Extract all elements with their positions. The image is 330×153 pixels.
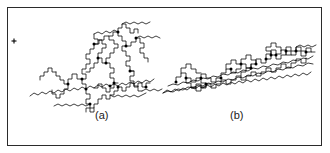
cluster-a-branch-11 bbox=[56, 72, 82, 84]
cluster-b-branch-12 bbox=[226, 60, 241, 69]
cluster-junction-dot bbox=[125, 45, 128, 48]
cluster-junction-dot bbox=[97, 57, 100, 60]
cluster-b-branch-4 bbox=[186, 58, 306, 88]
cluster-a-branch-6 bbox=[109, 32, 134, 71]
cluster-a-branch-15 bbox=[110, 93, 146, 97]
cluster-junction-dot bbox=[81, 78, 84, 81]
cluster-junction-dot bbox=[250, 67, 253, 70]
cluster-a-branch-22 bbox=[86, 108, 94, 112]
cluster-a-branch-20 bbox=[130, 71, 142, 91]
cluster-a-branch-5 bbox=[106, 63, 118, 83]
cluster-junction-dot bbox=[117, 31, 120, 34]
cluster-a-branch-2 bbox=[110, 79, 154, 86]
cluster-junction-dot bbox=[175, 81, 178, 84]
cluster-junction-dot bbox=[145, 86, 148, 89]
cluster-a-branch-17 bbox=[86, 58, 106, 72]
cluster-junction-dot bbox=[89, 103, 92, 106]
panel-label-b: (b) bbox=[230, 110, 243, 121]
cluster-a-branch-24 bbox=[40, 68, 56, 80]
cluster-junction-dot bbox=[295, 50, 298, 53]
cluster-b-branch-5 bbox=[181, 64, 201, 73]
cluster-junction-dot bbox=[240, 63, 243, 66]
cluster-plot-canvas bbox=[0, 0, 330, 153]
cluster-a-branch-21 bbox=[142, 89, 162, 91]
cluster-junction-dot bbox=[113, 82, 116, 85]
cluster-b-branch-15 bbox=[266, 43, 281, 55]
cluster-a-branch-9 bbox=[118, 24, 138, 33]
cluster-junction-dot bbox=[265, 58, 268, 61]
panel-label-a: (a) bbox=[95, 110, 108, 121]
cluster-junction-dot bbox=[117, 86, 120, 89]
cluster-junction-dot bbox=[129, 70, 132, 73]
plus-marker bbox=[12, 39, 17, 44]
cluster-junction-dot bbox=[270, 54, 273, 57]
cluster-a-branch-3 bbox=[82, 34, 98, 89]
cluster-junction-dot bbox=[185, 77, 188, 80]
cluster-a-branch-14 bbox=[54, 104, 90, 106]
cluster-a-paths bbox=[30, 22, 162, 112]
cluster-junction-dot bbox=[220, 77, 223, 80]
cluster-junction-dot bbox=[200, 77, 203, 80]
cluster-b-paths bbox=[163, 43, 316, 93]
cluster-b-branch-9 bbox=[163, 85, 207, 93]
cluster-junction-dot bbox=[205, 83, 208, 86]
cluster-junction-dot bbox=[305, 51, 308, 54]
cluster-junction-dot bbox=[85, 88, 88, 91]
cluster-a-branch-7 bbox=[126, 38, 148, 62]
cluster-junction-dot bbox=[93, 43, 96, 46]
cluster-a-branch-19 bbox=[94, 83, 114, 92]
cluster-junction-dot bbox=[230, 68, 233, 71]
cluster-junction-dot bbox=[285, 50, 288, 53]
cluster-junction-dot bbox=[135, 37, 138, 40]
cluster-junction-dot bbox=[67, 83, 70, 86]
cluster-b-branch-6 bbox=[241, 55, 256, 64]
cluster-junction-dot bbox=[275, 54, 278, 57]
cluster-junction-dot bbox=[105, 62, 108, 65]
cluster-junction-dot bbox=[109, 85, 112, 88]
figure-root: (a) (b) bbox=[0, 0, 330, 153]
cluster-junction-dot bbox=[255, 63, 258, 66]
